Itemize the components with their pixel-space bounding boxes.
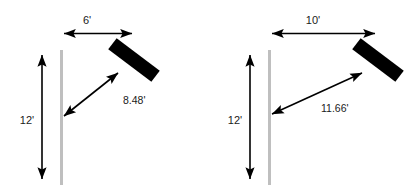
ladder-diagram-left: 6' 12' 8.48' [20,14,160,185]
horizontal-label-right: 10' [306,14,320,26]
diagonal-dimension-arrow-left [64,73,118,116]
board-right [352,38,404,82]
diagonal-label-left: 8.48' [123,94,145,106]
vertical-label-right: 12' [228,114,242,126]
diagonal-label-right: 11.66' [321,102,349,114]
horizontal-label-left: 6' [83,14,91,26]
vertical-label-left: 12' [20,114,34,126]
diagram-canvas: 6' 12' 8.48' 10' 12' 11.66' [0,0,409,194]
ladder-diagram-right: 10' 12' 11.66' [228,14,404,185]
